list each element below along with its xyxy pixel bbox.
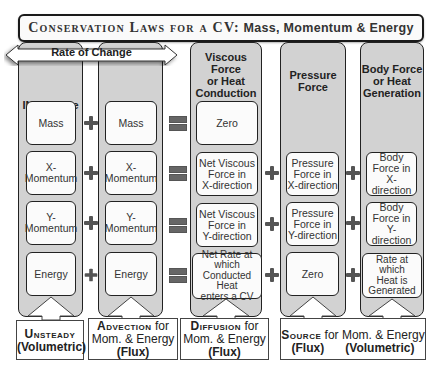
header-line: Body Force [361,63,423,75]
up-arrow-icon [106,296,156,320]
label-advection: Advection for Mom. & Energy (Flux) [88,318,178,360]
plus-icon [346,216,360,230]
cell-inside-x-momentum: X- Momentum [26,151,76,195]
equals-icon [169,166,185,180]
label-diffusion: Diffusion for Mom. & Energy (Flux) [180,318,269,360]
label-sub: (Volumetric) [17,340,86,354]
cell-body-force-y: Body Force in Y-direction [366,202,417,246]
cell-across-y-momentum: Y- Momentum [105,201,157,245]
label-sub-flux: (Flux) [292,342,325,355]
label-source: Source for Mom. & Energy (Flux) (Volumet… [280,318,426,360]
label-title: Advection [97,319,152,333]
header-line: Force [281,81,345,93]
up-arrow-icon [26,296,76,320]
header-line: Conduction [191,87,261,99]
plus-icon [85,269,98,282]
equals-icon [169,218,185,232]
cell-pressure-zero: Zero [286,252,339,296]
column-header: Viscous Force or Heat Conduction [191,51,261,99]
label-unsteady: Unsteady (Volumetric) [16,320,84,360]
plus-icon [84,116,98,130]
label-sub-volumetric: (Volumetric) [345,342,414,355]
header-line: Pressure [281,69,345,81]
diagram-title: Conservation Laws for a CV: Mass, Moment… [18,14,424,42]
cell-across-energy: Energy [105,252,157,296]
plus-icon [265,166,279,180]
label-title: Diffusion [191,319,242,333]
cell-viscous-zero: Zero [196,101,258,145]
cell-heat-generated: Rate at which Heat is Generated [362,253,422,298]
cell-pressure-x: Pressure Force in X-direction [286,152,339,196]
plus-icon [346,166,360,180]
header-line: Generation [361,87,423,99]
cell-conducted-heat: Net Rate at which Conducted Heat enters … [192,253,262,299]
header-line: or Heat [191,75,261,87]
up-arrow-icon [201,298,251,320]
column-header: Body Force or Heat Generation [361,63,423,99]
label-sub: (Flux) [208,345,241,359]
cell-inside-y-momentum: Y- Momentum [26,201,76,245]
label-sub: (Flux) [117,345,150,359]
label-for: for [152,319,169,333]
plus-icon [84,166,98,180]
plus-icon [84,216,98,230]
plus-icon [346,268,360,282]
up-arrow-icon [288,296,338,320]
title-small-caps: Conservation Laws for a CV: [28,20,240,36]
cell-net-viscous-y: Net Viscous Force in Y-direction [196,203,258,247]
cell-body-force-x: Body Force in X-direction [366,152,417,196]
label-for: for [241,319,258,333]
cell-across-x-momentum: X- Momentum [105,151,157,195]
label-for: for Mom. & Energy [321,328,424,342]
cell-inside-mass: Mass [26,101,76,145]
cell-across-mass: Mass [105,101,157,145]
equals-icon [169,268,185,282]
header-line: or Heat [361,75,423,87]
label-title: Source [281,328,321,342]
header-line: Viscous Force [191,51,261,75]
plus-icon [265,268,279,282]
column-header: Pressure Force [281,69,345,93]
cell-net-viscous-x: Net Viscous Force in X-direction [196,152,258,196]
up-arrow-icon [367,298,417,320]
cell-inside-energy: Energy [26,252,76,296]
rate-of-change-label: Rate of Change [4,46,179,58]
equals-icon [169,116,185,130]
cell-pressure-y: Pressure Force in Y-direction [286,202,339,246]
title-bold: Mass, Momentum & Energy [244,21,414,35]
plus-icon [265,217,279,231]
